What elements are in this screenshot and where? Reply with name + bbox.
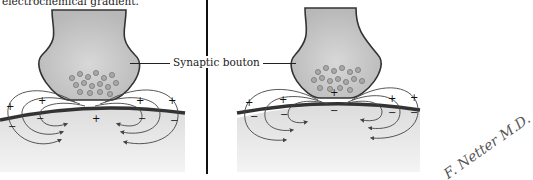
- left-panel: ++++ + −−−−: [0, 10, 185, 172]
- svg-text:+: +: [279, 94, 287, 105]
- right-panel: ++++ + −−−−−: [237, 8, 420, 172]
- svg-text:−: −: [330, 105, 338, 116]
- panel-divider: [206, 0, 208, 174]
- svg-text:+: +: [168, 95, 176, 106]
- svg-text:+: +: [6, 101, 14, 112]
- svg-text:+: +: [92, 113, 100, 124]
- svg-text:+: +: [38, 95, 46, 106]
- svg-text:+: +: [330, 87, 338, 98]
- svg-text:−: −: [8, 121, 16, 132]
- svg-text:+: +: [245, 97, 253, 108]
- svg-text:−: −: [170, 115, 178, 126]
- svg-text:−: −: [250, 111, 258, 122]
- svg-text:−: −: [410, 107, 418, 118]
- svg-text:−: −: [36, 113, 44, 124]
- svg-text:−: −: [280, 109, 288, 120]
- synaptic-bouton-label: Synaptic bouton: [170, 56, 263, 68]
- svg-text:−: −: [388, 107, 396, 118]
- svg-text:+: +: [410, 92, 418, 103]
- label-leader-left: [130, 63, 170, 64]
- svg-text:+: +: [136, 95, 144, 106]
- svg-text:+: +: [388, 93, 396, 104]
- svg-text:−: −: [138, 113, 146, 124]
